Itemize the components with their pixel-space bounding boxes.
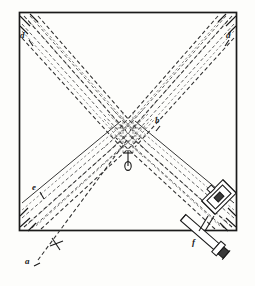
ray-bundle-lower-left xyxy=(20,121,140,231)
ray-bundle-upper-right xyxy=(119,14,236,147)
figure-root: .ray { stroke:#2e2e2e; stroke-width:1.05… xyxy=(0,0,255,286)
label-d-right: d xyxy=(226,31,231,40)
mirror-box xyxy=(198,176,236,214)
label-a: a xyxy=(25,257,30,266)
label-d-left: d xyxy=(20,31,25,40)
source-pinhole xyxy=(123,150,133,170)
label-e: e xyxy=(32,183,36,192)
incoming-ray-a xyxy=(38,140,127,260)
ray-bundle-upper-left xyxy=(20,14,137,147)
label-f: f xyxy=(192,238,195,247)
ray-bundle-lower-right xyxy=(116,121,236,231)
optical-diagram-canvas: .ray { stroke:#2e2e2e; stroke-width:1.05… xyxy=(0,0,255,286)
square-plate xyxy=(20,13,237,231)
label-b: b xyxy=(155,116,160,125)
cross-mark-on-ray-a xyxy=(50,238,63,250)
